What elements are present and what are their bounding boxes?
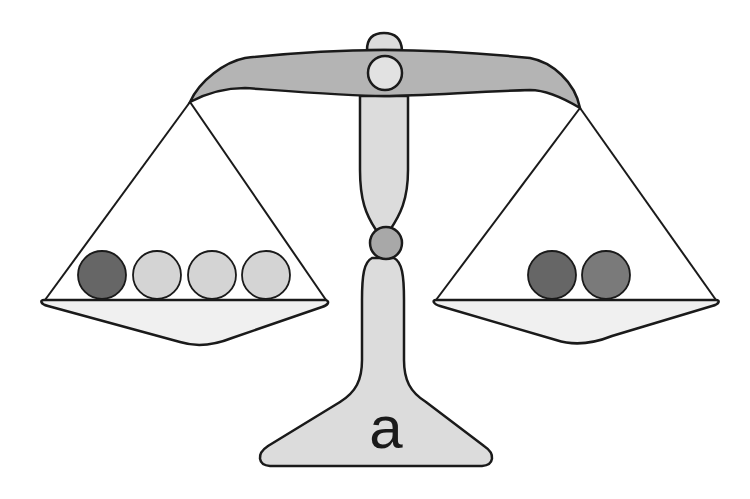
ball-light [188,251,236,299]
left-pan [41,300,328,345]
joint-circle [370,227,402,259]
left-pan-balls [78,251,290,299]
right-pan-balls [528,251,630,299]
scale-column-upper [360,96,408,230]
right-pan [434,300,719,343]
ball-light [133,251,181,299]
scale-label: a [369,394,403,461]
pivot-circle [368,56,402,90]
balance-scale-diagram: a [0,0,750,499]
ball-medium [582,251,630,299]
ball-dark [528,251,576,299]
top-knob [367,33,402,50]
ball-dark [78,251,126,299]
ball-light [242,251,290,299]
